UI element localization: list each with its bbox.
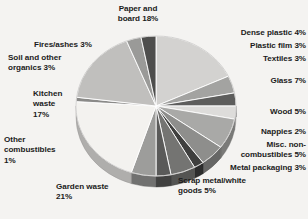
- pie-label-scrap-metal-white-goods: Scrap metal/white goods 5%: [178, 176, 304, 197]
- pie-label-other-combustibles: Other combustibles 1%: [4, 135, 88, 166]
- pie-label-textiles: Textiles 3%: [188, 54, 306, 64]
- pie-label-garden-waste: Garden waste 21%: [56, 182, 154, 203]
- pie-label-kitchen-waste: Kitchen waste 17%: [33, 89, 105, 120]
- pie-label-nappies: Nappies 2%: [188, 127, 306, 137]
- pie-label-fires-ashes: Fires/ashes 3%: [34, 40, 130, 50]
- pie-label-soil-and-other-organics: Soil and other organics 3%: [8, 53, 102, 74]
- pie-label-misc-non-combustibles: Misc. non- combustibles 5%: [188, 140, 306, 161]
- pie-label-paper-and-board: Paper and board 18%: [96, 4, 180, 25]
- pie-label-dense-plastic: Dense plastic 4%: [188, 28, 306, 38]
- pie-chart-figure: Paper and board 18%Dense plastic 4%Plast…: [0, 0, 308, 219]
- pie-label-plastic-film: Plastic film 3%: [188, 41, 306, 51]
- pie-side-metal-packaging: [156, 175, 171, 187]
- pie-label-metal-packaging: Metal packaging 3%: [184, 163, 306, 173]
- pie-label-glass: Glass 7%: [188, 76, 306, 86]
- pie-label-wood: Wood 5%: [188, 107, 306, 117]
